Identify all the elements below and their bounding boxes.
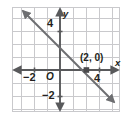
data-point-marker <box>84 67 90 73</box>
y-axis-tick-label-neg2: −2 <box>42 90 55 101</box>
y-axis-tick-label-4: 4 <box>47 18 53 29</box>
x-axis-name-label: x <box>115 58 120 68</box>
point-coordinate-label: (2, 0) <box>80 53 103 63</box>
coordinate-plane-figure: 4 −2 4 −2 O x y (2, 0) <box>0 0 129 117</box>
plot-background <box>13 8 120 112</box>
y-axis-name-label: y <box>63 9 68 19</box>
origin-label: O <box>46 72 54 82</box>
x-axis-tick-label-4: 4 <box>94 73 100 84</box>
x-axis-tick-label-neg2: −2 <box>23 72 36 83</box>
